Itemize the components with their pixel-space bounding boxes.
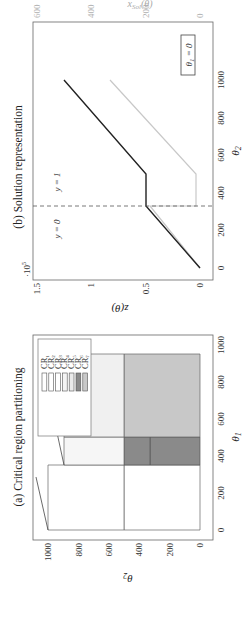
svg-text:800: 800: [216, 375, 226, 389]
panel-b-yticks-right: 0 200 400 600: [32, 4, 205, 18]
svg-text:800: 800: [74, 543, 84, 557]
panel-a-ylabel: θ2: [123, 571, 132, 585]
scale-note: ·105: [21, 262, 32, 277]
svg-text:600: 600: [216, 148, 226, 162]
svg-text:1000: 1000: [43, 543, 53, 562]
region-cr6: [150, 437, 200, 465]
svg-text:1.5: 1.5: [32, 283, 42, 295]
svg-text:400: 400: [86, 4, 96, 18]
svg-text:0.5: 0.5: [141, 283, 151, 295]
svg-text:600: 600: [104, 543, 114, 557]
panel-a-xlabel: θ1: [229, 432, 243, 441]
svg-text:200: 200: [216, 486, 226, 500]
svg-text:1000: 1000: [216, 336, 226, 355]
panel-a-legend: CR1CR2CR3CR4CR5CR6CR7: [38, 339, 91, 436]
legend-swatch: [83, 373, 88, 391]
region-cr2: [124, 465, 200, 530]
legend-swatch: [76, 373, 81, 391]
panel-b-xticks: 0 200 400 600 800 1000: [216, 71, 226, 271]
legend-swatch: [62, 373, 67, 391]
panel-b-xlabel: θ2: [229, 146, 243, 155]
legend-swatch: [69, 373, 74, 391]
legend-label: CR7: [80, 355, 91, 369]
panel-b: (b) Solution representation y = 0 y = 1 …: [12, 0, 243, 315]
svg-text:400: 400: [216, 449, 226, 463]
svg-text:200: 200: [216, 223, 226, 237]
theta1-box: θ1 = 0: [181, 35, 196, 75]
svg-text:1000: 1000: [216, 71, 226, 90]
svg-text:0: 0: [195, 543, 205, 548]
svg-text:400: 400: [216, 186, 226, 200]
region-cr1: [48, 465, 124, 530]
legend-swatch: [56, 373, 61, 391]
region-cr6b: [124, 437, 150, 465]
legend-swatch: [49, 373, 54, 391]
annot-y0: y = 0: [52, 219, 62, 240]
panel-a-xticks: 0 200 400 600 800 1000: [216, 336, 226, 533]
figure-stage: (a) Critical region partitioning 0 200 4…: [0, 0, 244, 627]
panel-a-yticks: 0 200 400 600 800 1000: [43, 543, 205, 562]
svg-text:0: 0: [195, 283, 205, 288]
svg-text:600: 600: [216, 412, 226, 426]
figure: (a) Critical region partitioning 0 200 4…: [0, 0, 244, 627]
panel-b-yticks: 0 0.5 1 1.5: [32, 283, 205, 295]
panel-b-title: (b) Solution representation: [12, 105, 25, 229]
svg-text:0: 0: [195, 13, 205, 18]
svg-text:200: 200: [165, 543, 175, 557]
region-cr3: [64, 437, 124, 465]
svg-text:400: 400: [134, 543, 144, 557]
region-cr7: [124, 354, 200, 437]
svg-text:0: 0: [216, 527, 226, 532]
panel-b-ylabel: z(θ): [111, 302, 129, 315]
panel-a-title: (a) Critical region partitioning: [12, 367, 25, 506]
annot-y1: y = 1: [52, 172, 62, 192]
legend-swatch: [42, 373, 47, 391]
svg-text:1: 1: [86, 283, 96, 288]
svg-text:800: 800: [216, 111, 226, 125]
svg-text:600: 600: [32, 4, 42, 18]
panel-a: (a) Critical region partitioning 0 200 4…: [12, 335, 243, 585]
svg-text:0: 0: [216, 265, 226, 270]
